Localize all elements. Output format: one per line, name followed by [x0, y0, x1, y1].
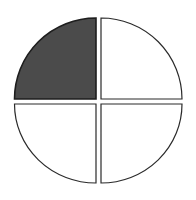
quadrant-bottom-right: [101, 104, 182, 183]
fraction-circle-diagram: [0, 0, 196, 200]
quadrant-top-left: [15, 18, 97, 99]
quadrant-bottom-left: [15, 104, 97, 183]
quadrant-top-right: [101, 18, 182, 99]
